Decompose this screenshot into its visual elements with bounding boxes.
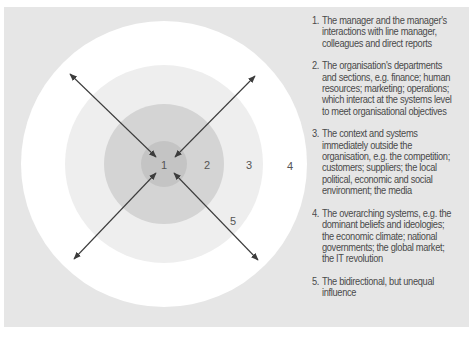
ring-label-1: 1	[161, 159, 167, 171]
legend-number: 2.	[312, 60, 322, 117]
legend-text: The overarching systems, e.g. the domina…	[322, 208, 454, 265]
legend-number: 3.	[312, 128, 322, 196]
ring-label-2: 2	[204, 159, 210, 171]
legend: 1. The manager and the manager's interac…	[312, 15, 454, 310]
legend-text: The organisation's departments and secti…	[322, 60, 454, 117]
legend-item-3: 3. The context and systems immediately o…	[312, 128, 454, 196]
legend-item-2: 2. The organisation's departments and se…	[312, 60, 454, 117]
legend-text: The manager and the manager's interactio…	[322, 15, 454, 49]
legend-number: 1.	[312, 15, 322, 49]
legend-text: The context and systems immediately outs…	[322, 128, 454, 196]
ring-label-3: 3	[246, 159, 252, 171]
ring-label-4: 4	[287, 160, 293, 172]
legend-item-5: 5. The bidirectional, but unequal influe…	[312, 276, 454, 299]
arrow-label-5: 5	[230, 215, 236, 227]
legend-number: 5.	[312, 276, 322, 299]
legend-number: 4.	[312, 208, 322, 265]
legend-text: The bidirectional, but unequal influence	[322, 276, 454, 299]
legend-item-1: 1. The manager and the manager's interac…	[312, 15, 454, 49]
legend-item-4: 4. The overarching systems, e.g. the dom…	[312, 208, 454, 265]
